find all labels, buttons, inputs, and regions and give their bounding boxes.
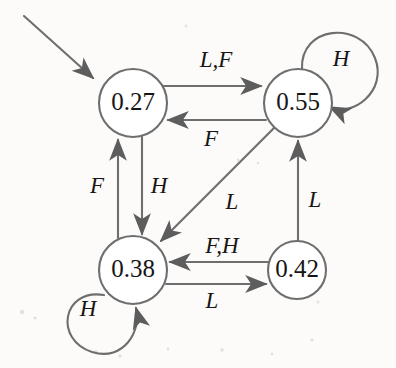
- edge-label-F-left: F: [89, 173, 105, 198]
- edge-027-to-055: L,F: [163, 47, 261, 86]
- node-label-042: 0.42: [275, 255, 319, 282]
- edge-055-to-027: F: [168, 120, 266, 151]
- node-label-055: 0.55: [276, 88, 320, 115]
- edge-label-L-bottom: L: [205, 288, 219, 313]
- state-diagram-canvas: L,F F F H L L F,H: [0, 0, 396, 368]
- edge-label-H-middle: H: [150, 173, 169, 198]
- scan-noise: [20, 25, 320, 358]
- edge-label-F-H: F,H: [204, 233, 240, 258]
- edge-label-L-F: L,F: [199, 47, 234, 72]
- node-label-038: 0.38: [111, 255, 155, 282]
- node-label-027: 0.27: [111, 88, 155, 115]
- node-042[interactable]: 0.42: [268, 241, 326, 299]
- edge-042-to-055: L: [298, 141, 321, 241]
- edge-038-to-042: L: [166, 284, 266, 313]
- edge-label-F-top: F: [203, 126, 219, 151]
- node-038[interactable]: 0.38: [99, 236, 167, 304]
- start-arrow: [24, 16, 93, 78]
- node-055[interactable]: 0.55: [264, 69, 332, 137]
- diagram-svg: L,F F F H L L F,H: [0, 0, 396, 368]
- edge-038-to-027: F: [89, 140, 118, 238]
- edge-label-L-right: L: [308, 187, 322, 212]
- edge-label-L-diagonal: L: [225, 189, 239, 214]
- self-loop-label-H-055: H: [332, 46, 351, 71]
- edge-042-to-038: F,H: [170, 233, 270, 262]
- node-027[interactable]: 0.27: [99, 69, 167, 137]
- edge-027-to-038: H: [142, 137, 169, 234]
- self-loop-label-H-038: H: [79, 296, 98, 321]
